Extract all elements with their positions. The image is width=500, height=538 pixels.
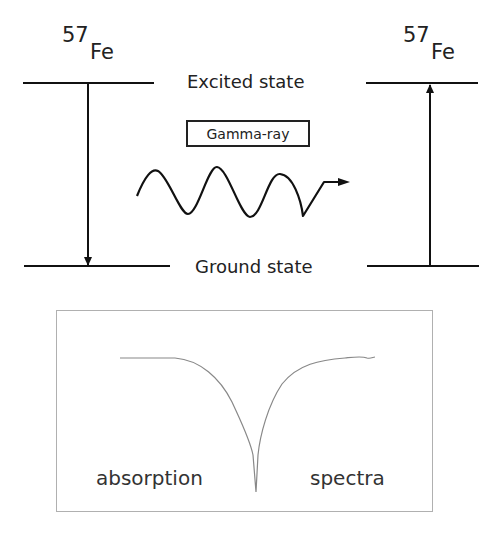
spectrum-right-label: spectra bbox=[310, 466, 385, 490]
ground-state-label: Ground state bbox=[195, 256, 313, 277]
excited-state-label: Excited state bbox=[187, 71, 304, 92]
left-element-symbol: Fe bbox=[90, 42, 114, 63]
gamma-wave bbox=[137, 167, 338, 217]
right-mass-number: 57 bbox=[403, 25, 430, 46]
wave-arrowhead-icon bbox=[338, 178, 350, 186]
gamma-ray-label-box: Gamma-ray bbox=[186, 120, 310, 147]
right-element-symbol: Fe bbox=[431, 42, 455, 63]
left-mass-number: 57 bbox=[62, 25, 89, 46]
gamma-ray-label: Gamma-ray bbox=[207, 126, 290, 142]
spectrum-left-label: absorption bbox=[96, 466, 203, 490]
